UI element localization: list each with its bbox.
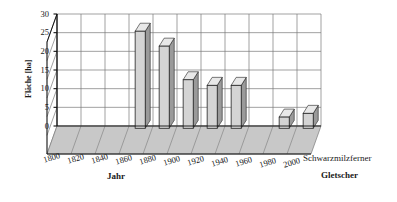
z-axis-title: Gletscher [321, 170, 358, 180]
y-tick-label: 20 [33, 46, 49, 56]
y-tick-label: 30 [33, 9, 49, 19]
y-tick-label: 5 [33, 102, 49, 112]
y-tick-label: 25 [33, 27, 49, 37]
y-tick-label: 0 [33, 121, 49, 131]
chart-floor [47, 126, 321, 154]
y-tick-label: 10 [33, 83, 49, 93]
chart-bars [135, 23, 318, 128]
x-axis-title: Jahr [107, 171, 125, 181]
series-label-schwarzmilzferner: Schwarzmilzferner [303, 153, 371, 163]
chart-container: 051015202530 180018201840186018801900192… [0, 0, 397, 202]
y-tick-label: 15 [33, 65, 49, 75]
y-axis-title: Fläche [ha] [24, 60, 33, 98]
